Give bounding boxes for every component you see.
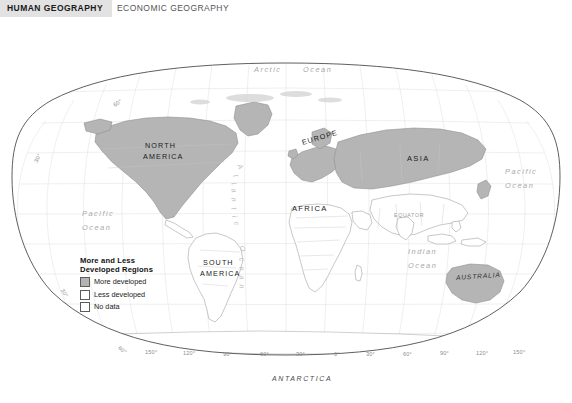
legend-label-less-developed: Less developed (94, 291, 145, 299)
legend-swatch-more-developed (80, 277, 90, 287)
landmass-madagascar (355, 265, 362, 281)
legend-item-less-developed[interactable]: Less developed (80, 290, 184, 300)
map-legend: More and Less Developed Regions More dev… (80, 256, 184, 314)
legend-label-no-data: No data (94, 303, 120, 311)
legend-swatch-no-data (80, 302, 90, 312)
page-header: HUMAN GEOGRAPHY ECONOMIC GEOGRAPHY (0, 0, 572, 22)
legend-title-line1: More and Less (80, 256, 184, 265)
header-subtitle-economic-geography: ECONOMIC GEOGRAPHY (117, 0, 229, 17)
legend-item-more-developed[interactable]: More developed (80, 277, 184, 287)
map-body (0, 22, 572, 403)
map-svg (0, 22, 572, 403)
legend-label-more-developed: More developed (94, 278, 146, 286)
legend-item-no-data[interactable]: No data (80, 302, 184, 312)
header-tab-human-geography[interactable]: HUMAN GEOGRAPHY (0, 0, 112, 17)
landmass-new-zealand (514, 299, 524, 312)
world-map: NORTH AMERICA SOUTH AMERICA EUROPE AFRIC… (0, 22, 572, 403)
legend-title: More and Less Developed Regions (80, 256, 184, 275)
legend-swatch-less-developed (80, 290, 90, 300)
legend-title-line2: Developed Regions (80, 265, 184, 274)
